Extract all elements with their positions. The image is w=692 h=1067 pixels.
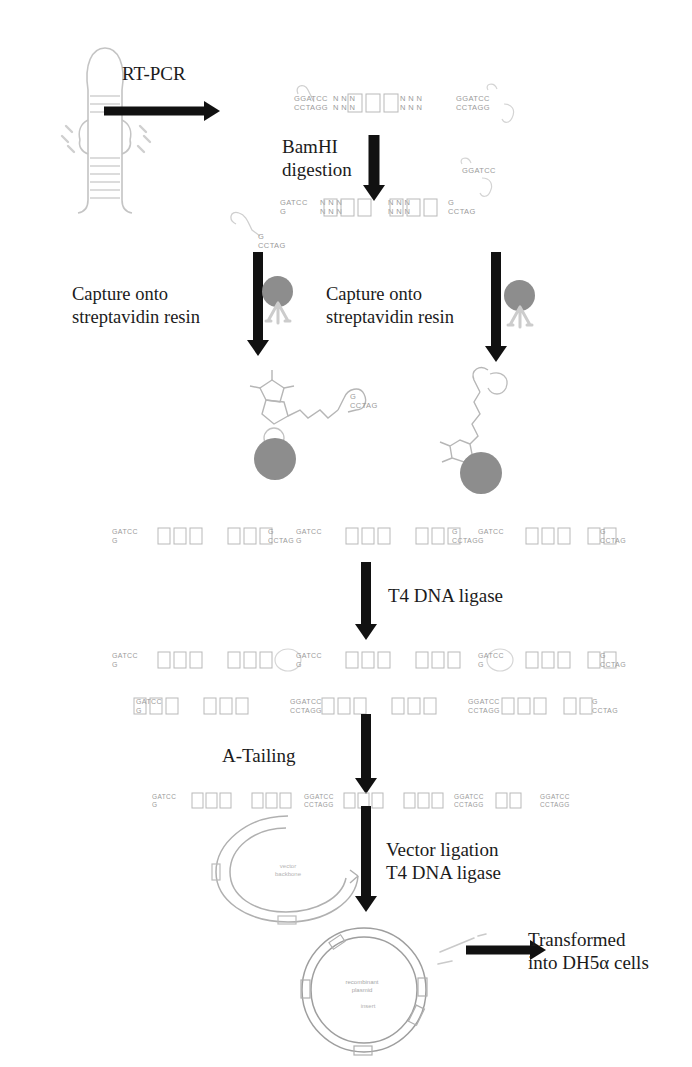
label-rt-pcr: RT-PCR	[122, 62, 186, 85]
bead-left-lower	[254, 438, 296, 480]
diagram-canvas: RT-PCR GGATCC CCTAGG N N N N N N N N N N…	[0, 0, 692, 1067]
sequence-a-tailed-c: GGATCC CCTAGG	[454, 793, 484, 809]
sequence-concatemer-c: GGATCC CCTAGG	[468, 698, 500, 715]
label-bamhi-digestion: BamHI digestion	[282, 135, 352, 181]
sequence-released-right: GGATCC	[462, 166, 496, 175]
sequence-pooled-d: G CCTAG	[452, 528, 478, 545]
sequence-released-left: G CCTAG	[258, 232, 286, 250]
label-capture-left: Capture onto streptavidin resin	[72, 283, 200, 328]
arrow-t4-ligase-1	[355, 562, 377, 640]
sequence-concatemer-end: G CCTAG	[592, 698, 618, 715]
arrow-rt-pcr	[104, 100, 220, 122]
svg-text:recombinant: recombinant	[345, 979, 378, 985]
sequence-joined-b: GATCC G	[296, 652, 322, 669]
sequence-concatemer-b: GGATCC CCTAGG	[290, 698, 322, 715]
sequence-amplicon-left-n: N N N N N N	[333, 94, 355, 112]
arrow-a-tailing	[355, 714, 377, 794]
sequence-pooled-e: GATCC G	[478, 528, 504, 545]
svg-text:backbone: backbone	[275, 871, 302, 877]
label-transformed-dh5a: Transformed into DH5α cells	[528, 928, 649, 974]
dna-strand-joined	[110, 648, 620, 674]
sequence-pooled-a: GATCC G	[112, 528, 138, 545]
linearized-vector-plasmid: vector backbone	[208, 810, 368, 928]
dna-strand-pooled	[110, 524, 620, 550]
biotin-bead-complex-left	[238, 366, 388, 496]
svg-text:plasmid: plasmid	[352, 987, 373, 993]
hairpin-tail-amplicon-right	[482, 86, 522, 128]
sequence-pooled-b: G CCTAG	[268, 528, 294, 545]
label-vector-ligation: Vector ligation T4 DNA ligase	[386, 838, 501, 884]
sequence-joined-a: GATCC G	[112, 652, 138, 669]
streptavidin-shape-right	[504, 307, 536, 329]
label-t4-dna-ligase: T4 DNA ligase	[388, 584, 503, 607]
streptavidin-shape-left	[262, 303, 294, 325]
sequence-a-tailed-end: GGATCC CCTAGG	[540, 793, 570, 809]
arrow-vector-ligation	[355, 806, 377, 912]
sequence-amplicon-left: GGATCC CCTAGG	[294, 94, 328, 112]
sequence-joined-c: GATCC G	[478, 652, 504, 669]
arrow-bamhi-digestion	[362, 135, 386, 201]
sequence-amplicon-right-n: N N N N N N	[400, 94, 422, 112]
sequence-pooled-f: G CCTAG	[600, 528, 626, 545]
svg-text:insert: insert	[361, 1003, 376, 1009]
bead-right-lower	[460, 452, 502, 494]
sequence-a-tailed-a: GATCC G	[152, 793, 176, 809]
svg-text:vector: vector	[280, 863, 296, 869]
sequence-biotin-left-overhang: G CCTAG	[350, 392, 378, 410]
recombinant-plasmid: recombinant plasmid insert	[292, 922, 442, 1062]
sequence-a-tailed-b: GGATCC CCTAGG	[304, 793, 334, 809]
label-a-tailing: A-Tailing	[222, 744, 296, 767]
sequence-pooled-c: GATCC G	[296, 528, 322, 545]
label-capture-right: Capture onto streptavidin resin	[326, 283, 454, 328]
sequence-joined-end: G CCTAG	[600, 652, 626, 669]
sequence-concatemer-a: GATCC G	[136, 698, 162, 715]
